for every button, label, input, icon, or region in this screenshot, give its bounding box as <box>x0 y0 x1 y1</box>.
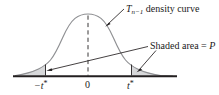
right-tail-shaded-area <box>132 66 162 76</box>
curve-label: Tn−1 density curve <box>126 4 199 16</box>
t-distribution-figure: Tn−1 density curve Shaded area = P −t* 0… <box>0 0 219 95</box>
shaded-area-label-value: P <box>209 40 215 51</box>
shaded-area-label: Shaded area = P <box>150 41 215 51</box>
curve-label-subscript: n−1 <box>132 8 144 16</box>
axis-label-negative-tstar: −t* <box>34 80 48 91</box>
curve-callout-leader <box>105 9 124 27</box>
axis-label-zero: 0 <box>85 80 90 90</box>
curve-label-text: density curve <box>146 3 200 14</box>
axis-label-negative-tstar-text: −t <box>34 80 44 91</box>
axis-label-positive-tstar: t* <box>127 80 134 91</box>
shaded-callout-leader-right <box>137 51 156 73</box>
t-density-curve <box>16 14 173 76</box>
axis-label-negative-tstar-star: * <box>44 79 48 88</box>
axis-label-positive-tstar-star: * <box>130 79 134 88</box>
shaded-area-label-prefix: Shaded area = <box>150 40 207 51</box>
